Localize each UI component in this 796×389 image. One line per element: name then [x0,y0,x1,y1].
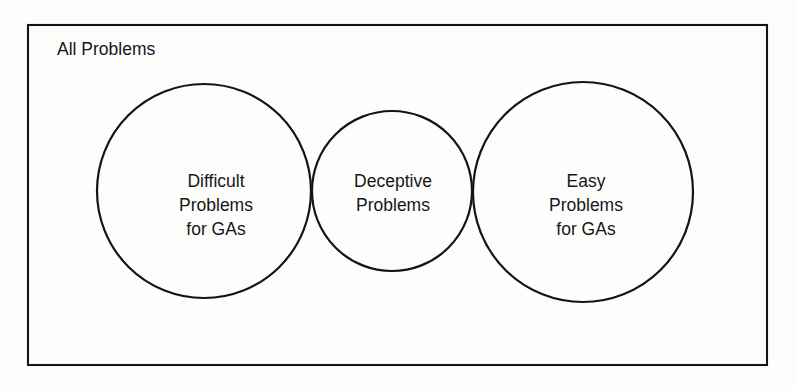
set-label-difficult-line1: Difficult [187,171,244,191]
set-label-difficult-line2: Problems [179,195,253,215]
set-label-deceptive: Deceptive Problems [354,171,432,215]
set-label-deceptive-line1: Deceptive [354,171,432,191]
set-circle-easy [473,82,693,302]
set-label-easy-line1: Easy [567,171,606,191]
set-circle-deceptive [312,111,472,271]
set-label-easy-line3: for GAs [556,219,616,239]
set-label-deceptive-line2: Problems [356,195,430,215]
set-label-easy: Easy Problems for GAs [549,171,623,239]
set-label-difficult: Difficult Problems for GAs [179,171,253,239]
set-label-difficult-line3: for GAs [186,219,246,239]
set-label-easy-line2: Problems [549,195,623,215]
universe-label: All Problems [57,39,155,59]
venn-diagram-figure: All Problems Difficult Problems for GAs … [0,0,796,389]
venn-diagram-canvas: All Problems Difficult Problems for GAs … [0,0,796,389]
set-circle-difficult [97,84,311,298]
